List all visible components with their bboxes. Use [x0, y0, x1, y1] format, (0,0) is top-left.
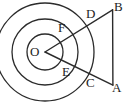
point-label-D: D — [86, 7, 95, 20]
geometry-figure: O F D B E C A — [0, 0, 131, 110]
point-label-A: A — [112, 81, 121, 94]
ray-O-to-A — [45, 52, 113, 85]
point-label-O: O — [30, 45, 39, 58]
point-label-C: C — [86, 76, 95, 89]
point-label-B: B — [114, 0, 123, 13]
point-label-F: F — [58, 21, 65, 34]
outer-circle — [0, 3, 94, 101]
point-label-E: E — [62, 65, 70, 78]
